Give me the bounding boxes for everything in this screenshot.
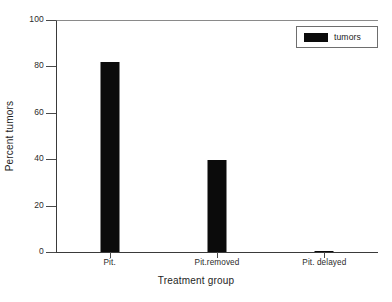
legend-label-tumors: tumors: [334, 32, 361, 42]
bar: [315, 251, 334, 252]
bar: [208, 160, 227, 252]
bar-chart-figure: 020406080100 Pit.Pit.removedPit. delayed…: [0, 0, 392, 302]
y-tick-mark: [46, 252, 56, 253]
x-tick-label: Pit.removed: [195, 258, 240, 267]
y-tick-mark: [46, 20, 56, 21]
x-tick-label: Pit. delayed: [302, 258, 346, 267]
y-tick-mark: [46, 66, 56, 67]
y-tick-mark: [46, 159, 56, 160]
y-tick-mark: [46, 113, 56, 114]
x-axis-title: Treatment group: [0, 275, 392, 286]
x-tick-label: Pit.: [104, 258, 116, 267]
y-tick-mark: [46, 206, 56, 207]
legend-swatch-tumors: [304, 33, 328, 42]
y-axis-title: Percent tumors: [4, 101, 15, 172]
legend: tumors: [296, 26, 378, 48]
bar: [100, 62, 119, 252]
